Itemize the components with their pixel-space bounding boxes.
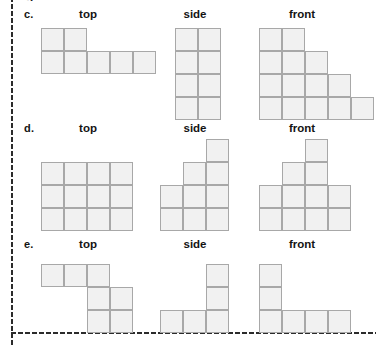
view-label-top-e: top [79, 238, 97, 250]
unit-square [259, 28, 282, 51]
unit-square [183, 208, 206, 231]
unit-square [87, 51, 110, 74]
unit-square [282, 208, 305, 231]
unit-square [175, 97, 198, 120]
unit-square [198, 51, 221, 74]
unit-square [64, 264, 87, 287]
unit-square [110, 208, 133, 231]
unit-square [41, 264, 64, 287]
shape-grid-e-side [160, 264, 229, 333]
unit-square [282, 51, 305, 74]
unit-square [305, 139, 328, 162]
shape-grid-e-front [259, 264, 351, 333]
unit-square [206, 139, 229, 162]
unit-square [183, 185, 206, 208]
unit-square [259, 208, 282, 231]
unit-square [64, 51, 87, 74]
view-label-front-c: front [289, 8, 315, 20]
view-label-front-e: front [289, 238, 315, 250]
unit-square [41, 162, 64, 185]
unit-square [175, 51, 198, 74]
unit-square [282, 28, 305, 51]
unit-square [305, 310, 328, 333]
unit-square [259, 287, 282, 310]
view-label-side-e: side [183, 238, 206, 250]
shape-grid-d-side [160, 139, 229, 231]
unit-square [198, 28, 221, 51]
shape-grid-c-side [175, 28, 221, 120]
unit-square [282, 310, 305, 333]
unit-square [206, 287, 229, 310]
unit-square [305, 185, 328, 208]
unit-square [160, 310, 183, 333]
unit-square [282, 74, 305, 97]
view-label-side-d: side [183, 122, 206, 134]
unit-square [259, 97, 282, 120]
shape-grid-c-top [41, 28, 156, 74]
unit-square [160, 185, 183, 208]
unit-square [328, 185, 351, 208]
unit-square [41, 185, 64, 208]
unit-square [64, 208, 87, 231]
unit-square [87, 208, 110, 231]
view-label-top-d: top [79, 122, 97, 134]
unit-square [206, 208, 229, 231]
unit-square [183, 162, 206, 185]
unit-square [183, 310, 206, 333]
unit-square [206, 310, 229, 333]
unit-square [305, 162, 328, 185]
unit-square [175, 74, 198, 97]
unit-square [206, 264, 229, 287]
unit-square [110, 310, 133, 333]
unit-square [259, 310, 282, 333]
unit-square [87, 185, 110, 208]
unit-square [206, 185, 229, 208]
view-label-side-c: side [183, 8, 206, 20]
unit-square [41, 208, 64, 231]
unit-square [87, 162, 110, 185]
unit-square [328, 310, 351, 333]
unit-square [305, 51, 328, 74]
unit-square [259, 264, 282, 287]
unit-square [87, 287, 110, 310]
unit-square [259, 185, 282, 208]
unit-square [64, 162, 87, 185]
unit-square [160, 208, 183, 231]
row-letter-e: e. [24, 238, 34, 250]
row-letter-c: c. [24, 8, 34, 20]
unit-square [305, 74, 328, 97]
unit-square [328, 208, 351, 231]
unit-square [305, 208, 328, 231]
unit-square [328, 74, 351, 97]
unit-square [110, 51, 133, 74]
unit-square [305, 97, 328, 120]
unit-square [351, 97, 374, 120]
unit-square [64, 185, 87, 208]
unit-square [198, 74, 221, 97]
shape-grid-e-top [41, 264, 133, 333]
unit-square [259, 74, 282, 97]
unit-square [64, 28, 87, 51]
unit-square [133, 51, 156, 74]
unit-square [206, 162, 229, 185]
view-label-top-c: top [79, 8, 97, 20]
shape-grid-d-top [41, 162, 133, 231]
clipped-heading-text: g [26, 0, 33, 1]
shape-grid-d-front [259, 139, 351, 231]
view-label-front-d: front [289, 122, 315, 134]
unit-square [110, 185, 133, 208]
shape-grid-c-front [259, 28, 374, 120]
unit-square [198, 97, 221, 120]
unit-square [282, 185, 305, 208]
unit-square [110, 162, 133, 185]
unit-square [282, 162, 305, 185]
row-letter-d: d. [24, 122, 34, 134]
unit-square [282, 97, 305, 120]
unit-square [328, 97, 351, 120]
unit-square [41, 28, 64, 51]
unit-square [87, 264, 110, 287]
unit-square [110, 287, 133, 310]
unit-square [259, 51, 282, 74]
unit-square [87, 310, 110, 333]
unit-square [41, 51, 64, 74]
